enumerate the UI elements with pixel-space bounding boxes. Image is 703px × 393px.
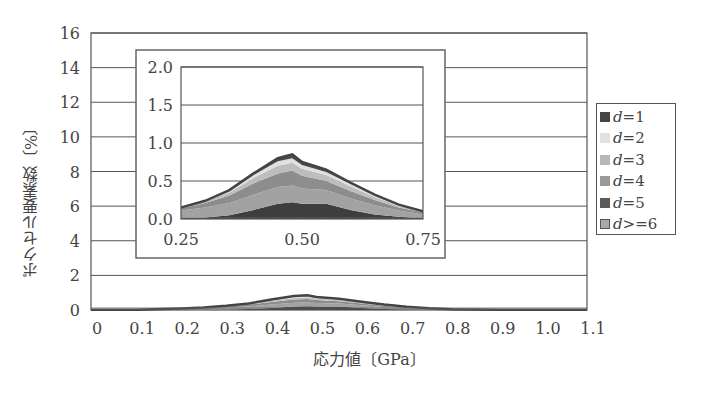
main-x-ticks: 00.10.20.30.40.50.60.70.80.91.01.1 [92,319,606,338]
legend-item-d3: d=3 [600,149,675,171]
inset-x-tick-label: 0.75 [405,230,441,249]
y-tick-label: 14 [60,59,80,78]
x-tick-label: 0.2 [174,319,199,338]
x-tick-label: 0.5 [310,319,335,338]
inset-y-tick-label: 1.5 [148,96,173,115]
y-tick-label: 8 [70,163,80,182]
x-tick-label: 1.1 [580,319,605,338]
legend-item-d4: d=4 [600,171,675,193]
legend-swatch-d4 [600,176,610,186]
x-tick-label: 0.4 [265,319,290,338]
y-tick-label: 4 [70,232,80,251]
legend-swatch-d6plus [600,219,610,229]
x-tick-label: 1.0 [535,319,560,338]
inset-x-tick-label: 0.50 [284,230,320,249]
legend-swatch-d5 [600,198,610,208]
legend-item-d1: d=1 [600,106,675,128]
legend-swatch-d3 [600,155,610,165]
y-tick-label: 12 [60,93,80,112]
legend: d=1 d=2 d=3 d=4 d=5 d>=6 [596,103,676,235]
inset-y-tick-label: 1.0 [148,134,173,153]
y-tick-label: 2 [70,266,80,285]
y-tick-label: 6 [70,197,80,216]
inset-chart: 0.00.51.01.52.00.250.500.75 [60,50,592,258]
legend-item-d6plus: d>=6 [600,214,675,236]
y-tick-label: 16 [60,24,80,43]
legend-swatch-d1 [600,112,610,122]
x-tick-label: 0.9 [490,319,515,338]
legend-item-d5: d=5 [600,192,675,214]
y-axis-label: ボクセル要素数〔%〕 [20,98,44,298]
inset-y-tick-label: 0.0 [148,210,173,229]
inset-y-tick-label: 0.5 [148,172,173,191]
y-tick-label: 10 [60,128,80,147]
legend-swatch-d2 [600,133,610,143]
x-tick-label: 0.6 [355,319,380,338]
main-y-ticks: 0246810121416 [60,24,80,320]
x-tick-label: 0.8 [445,319,470,338]
x-tick-label: 0 [92,319,102,338]
main-plot-area [91,295,587,310]
inset-y-tick-label: 2.0 [148,58,173,77]
legend-item-d2: d=2 [600,128,675,150]
x-tick-label: 0.7 [400,319,425,338]
x-axis-label: 応力値〔GPa〕 [0,346,703,370]
x-tick-label: 0.3 [220,319,245,338]
x-tick-label: 0.1 [129,319,154,338]
inset-x-tick-label: 0.25 [163,230,199,249]
y-tick-label: 0 [70,301,80,320]
